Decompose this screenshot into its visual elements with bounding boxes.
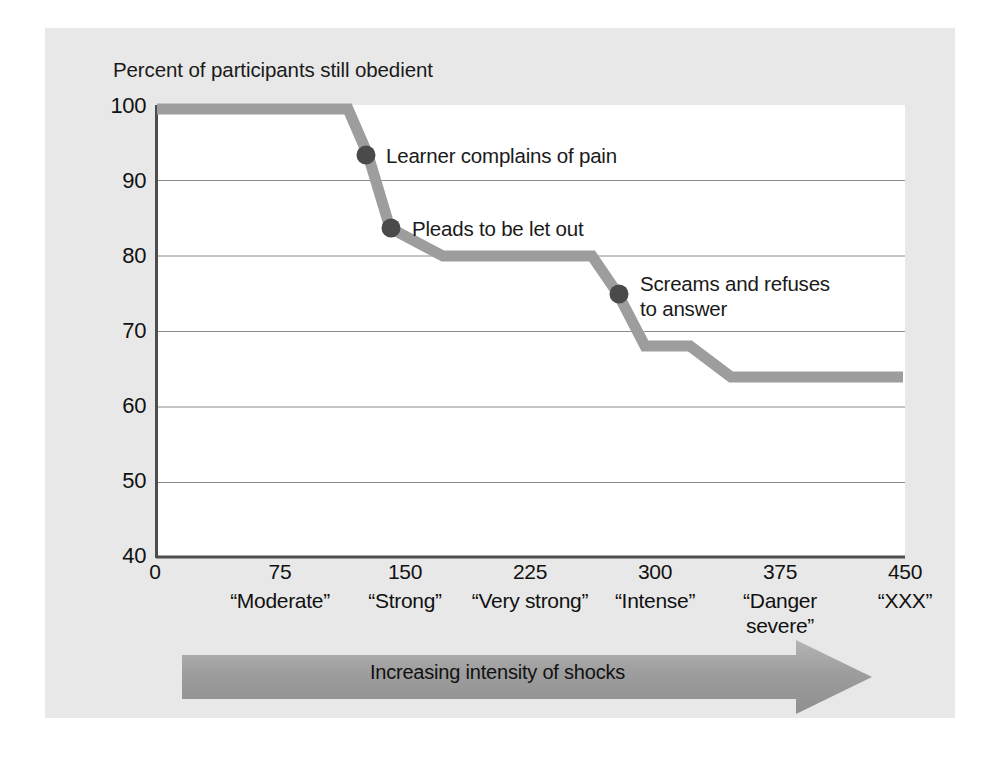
annotation-pleads-to-be-let-out: Pleads to be let out — [412, 216, 584, 241]
data-point-marker-pleads-let-out — [382, 219, 401, 238]
data-point-marker-screams-refuses — [610, 285, 629, 304]
annotation-screams-and-refuses: Screams and refuses to answer — [640, 271, 830, 321]
figure-container: Percent of participants still obedient 1… — [0, 0, 995, 761]
increasing-intensity-arrow — [182, 640, 872, 714]
plot-area — [0, 0, 995, 761]
data-point-marker-learner-complains — [357, 146, 376, 165]
arrow-shape — [182, 640, 872, 714]
annotation-learner-complains-of-pain: Learner complains of pain — [386, 143, 617, 168]
